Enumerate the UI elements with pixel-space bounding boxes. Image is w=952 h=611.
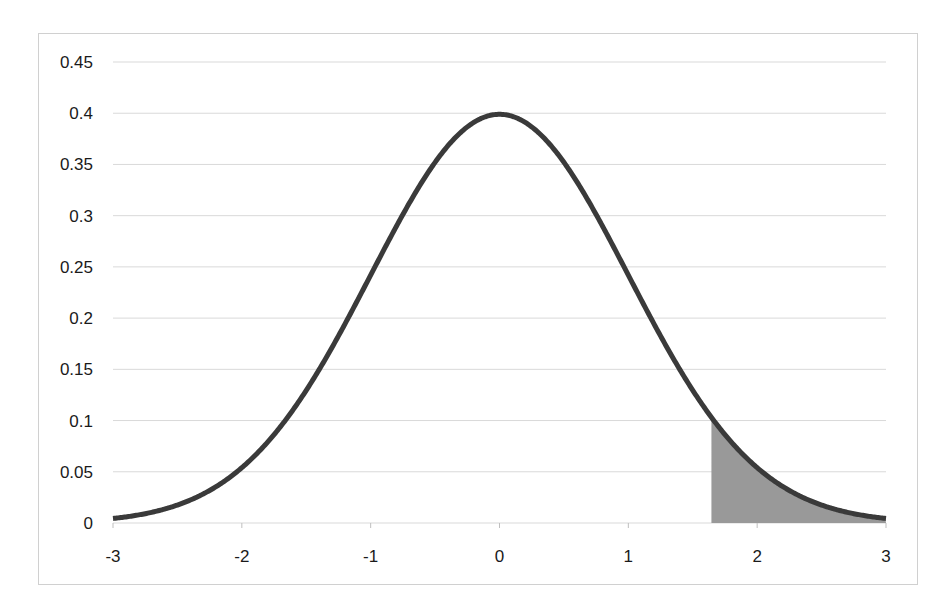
x-tick-label: 0 [495, 547, 504, 566]
x-tick-label: -2 [234, 547, 249, 566]
y-tick-label: 0.1 [69, 412, 93, 431]
y-tick-label: 0.05 [60, 463, 93, 482]
normal-distribution-chart: 00.050.10.150.20.250.30.350.40.45 -3-2-1… [0, 0, 952, 611]
y-tick-label: 0.2 [69, 309, 93, 328]
x-axis-tick-labels: -3-2-10123 [105, 547, 890, 566]
y-tick-label: 0.4 [69, 104, 93, 123]
shaded-tail-area [711, 417, 886, 523]
gridlines [113, 62, 886, 523]
y-tick-label: 0 [84, 514, 93, 533]
y-tick-label: 0.45 [60, 53, 93, 72]
y-tick-label: 0.25 [60, 258, 93, 277]
x-tick-label: 1 [624, 547, 633, 566]
y-tick-label: 0.15 [60, 360, 93, 379]
x-tick-label: 3 [881, 547, 890, 566]
y-tick-label: 0.3 [69, 207, 93, 226]
x-tick-label: 2 [752, 547, 761, 566]
density-curve [113, 114, 886, 518]
x-axis-ticks [113, 523, 886, 528]
x-tick-label: -1 [363, 547, 378, 566]
y-axis-tick-labels: 00.050.10.150.20.250.30.350.40.45 [60, 53, 93, 533]
x-tick-label: -3 [105, 547, 120, 566]
y-tick-label: 0.35 [60, 155, 93, 174]
